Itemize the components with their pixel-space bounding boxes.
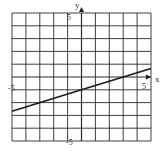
y-max-tick-label: 5	[67, 14, 71, 22]
coordinate-plane	[0, 0, 164, 153]
x-max-tick-label: 5	[142, 83, 146, 91]
y-axis-label: y	[75, 1, 80, 10]
y-min-tick-label: -5	[66, 139, 73, 147]
x-min-tick-label: -5	[8, 85, 15, 93]
x-axis-arrow-icon	[146, 75, 151, 80]
x-axis-label: x	[155, 75, 160, 84]
